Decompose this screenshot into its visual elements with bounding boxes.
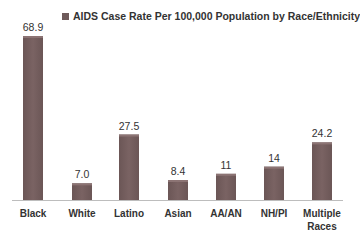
bar-asian xyxy=(168,180,188,200)
bar-white xyxy=(72,183,92,200)
bar-black xyxy=(23,36,43,200)
bar-top-highlight xyxy=(216,174,236,176)
bar-top-highlight xyxy=(72,183,92,185)
data-label: 68.9 xyxy=(23,21,44,33)
x-tick-label: Black xyxy=(20,208,47,219)
x-tick-label: NH/PI xyxy=(261,208,288,219)
x-tick-label: MultipleRaces xyxy=(303,208,341,232)
bar-aa-an xyxy=(216,174,236,200)
data-label: 8.4 xyxy=(171,165,186,177)
bar-top-highlight xyxy=(168,180,188,182)
x-tick-label: White xyxy=(68,208,96,219)
bar-top-highlight xyxy=(312,142,332,144)
data-label: 7.0 xyxy=(75,168,90,180)
x-tick-label: Latino xyxy=(114,208,144,219)
bar-latino xyxy=(119,135,139,200)
bar-top-highlight xyxy=(264,167,284,169)
x-tick-label: Asian xyxy=(164,208,191,219)
bar-nh-pi xyxy=(264,167,284,200)
bar-multiple-races xyxy=(312,142,332,200)
data-label: 24.2 xyxy=(312,127,333,139)
x-tick-label: AA/AN xyxy=(210,208,242,219)
bar-top-highlight xyxy=(119,135,139,137)
bar-top-highlight xyxy=(23,36,43,38)
data-label: 27.5 xyxy=(119,120,140,132)
data-label: 14 xyxy=(268,152,280,164)
data-label: 11 xyxy=(221,159,232,171)
